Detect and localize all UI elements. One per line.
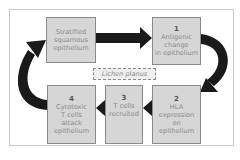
- node-number: 3: [122, 94, 127, 102]
- node-stratified-squamous-epithelium: Stratified squamous epithelium: [46, 17, 96, 63]
- node-step1-antigenic-change: 1 Antigenic change in epithelium: [152, 17, 201, 65]
- node-line: in epithelium: [155, 49, 198, 57]
- node-step2-hla-expression: 2 HLA expression on epithelium: [152, 85, 201, 144]
- node-line: Cytotoxic: [56, 103, 87, 111]
- arrow-step1-to-step2-icon: [200, 34, 228, 92]
- node-line: on: [172, 119, 180, 127]
- node-line: T cells: [61, 111, 82, 119]
- node-line: expression: [159, 111, 195, 119]
- node-line: Stratified: [56, 28, 86, 36]
- node-line: HLA: [170, 103, 183, 111]
- node-line: attack: [61, 119, 82, 127]
- node-number: 4: [69, 95, 74, 103]
- center-label-lichen-planus: Lichen planus: [93, 68, 156, 80]
- node-step4-cytotoxic-t-cells: 4 Cytotoxic T cells attack epithelium: [47, 85, 96, 144]
- node-line: change: [164, 41, 188, 49]
- node-number: 1: [174, 25, 179, 33]
- node-line: epithelium: [53, 44, 88, 52]
- node-line: epithelium: [159, 127, 194, 135]
- node-number: 2: [174, 95, 179, 103]
- node-line: epithelium: [54, 127, 89, 135]
- node-line: recruited: [109, 110, 139, 118]
- node-line: squamous: [54, 36, 88, 44]
- node-line: Antigenic: [161, 33, 192, 41]
- node-step3-t-cells-recruited: 3 T cells recruited: [105, 85, 143, 144]
- node-line: T cells: [114, 102, 135, 110]
- arrow-step4-to-start-icon: [18, 40, 47, 110]
- arrow-start-to-step1-icon: [95, 27, 152, 49]
